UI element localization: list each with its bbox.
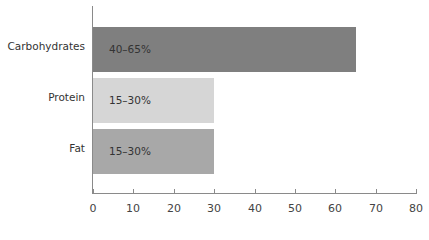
x-tick [133, 189, 134, 194]
x-tick-label: 80 [401, 202, 429, 215]
bar-carbohydrates: 40–65% [93, 27, 356, 72]
x-tick-label: 30 [199, 202, 229, 215]
x-tick-label: 50 [280, 202, 310, 215]
x-tick [416, 189, 417, 194]
category-label-protein: Protein [48, 91, 85, 103]
bar-value-label: 40–65% [109, 27, 151, 72]
category-label-fat: Fat [69, 142, 85, 154]
x-tick [295, 189, 296, 194]
x-tick-label: 10 [118, 202, 148, 215]
x-tick-label: 20 [159, 202, 189, 215]
x-tick [335, 189, 336, 194]
x-tick [214, 189, 215, 194]
bar-fat: 15–30% [93, 129, 214, 174]
x-tick [93, 189, 94, 194]
x-tick-label: 0 [78, 202, 108, 215]
x-tick-label: 40 [240, 202, 270, 215]
bar-value-label: 15–30% [109, 78, 151, 123]
x-tick [174, 189, 175, 194]
bar-protein: 15–30% [93, 78, 214, 123]
x-tick [255, 189, 256, 194]
category-label-carbohydrates: Carbohydrates [7, 40, 85, 52]
x-tick [376, 189, 377, 194]
x-tick-label: 60 [320, 202, 350, 215]
x-tick-label: 70 [361, 202, 391, 215]
bar-value-label: 15–30% [109, 129, 151, 174]
